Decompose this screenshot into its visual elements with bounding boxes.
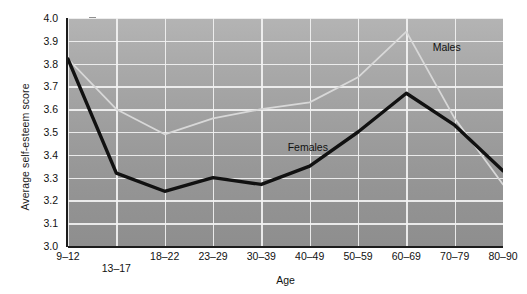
y-axis-tick-label: 3.7 (43, 80, 58, 92)
x-axis-tick-label: 50–59 (343, 250, 372, 262)
x-axis-tick-label: 9–12 (56, 250, 79, 262)
x-axis-tick-label: 40–49 (295, 250, 324, 262)
chart-figure: Average self-esteem score 4.03.93.83.73.… (0, 0, 527, 294)
y-axis-tick-label: 3.6 (43, 103, 58, 115)
x-axis-tick-label: 18–22 (150, 250, 179, 262)
y-axis-tick-label: 3.8 (43, 58, 58, 70)
y-axis-tick-label: 3.1 (43, 217, 58, 229)
x-axis-label: Age (68, 274, 503, 286)
y-axis-tick-label: 3.2 (43, 194, 58, 206)
x-axis-line (68, 246, 503, 248)
y-axis-tick-label: 3.3 (43, 172, 58, 184)
series-annotation-males: Males (433, 41, 461, 53)
x-axis-tick-label: 30–39 (247, 250, 276, 262)
x-axis-tick-label: 23–29 (198, 250, 227, 262)
y-axis-tick-label: 3.5 (43, 126, 58, 138)
x-axis-tick-label: 80–90 (488, 250, 517, 262)
y-axis-tick-label: 4.0 (43, 12, 58, 24)
y-axis-tick-label: 3.4 (43, 149, 58, 161)
series-annotation-females: Females (288, 141, 328, 153)
x-axis-tick-label: 70–79 (440, 250, 469, 262)
series-line-males (68, 32, 503, 185)
y-axis-tick-label: 3.9 (43, 35, 58, 47)
x-axis-tick-label: 60–69 (392, 250, 421, 262)
series-line-females (68, 59, 503, 191)
x-axis-tick-label: 13–17 (102, 262, 131, 274)
